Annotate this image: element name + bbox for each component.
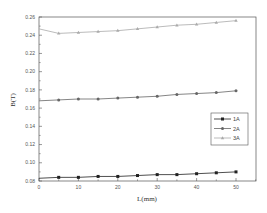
y-tick-label: 0.24 [25, 32, 35, 38]
y-tick-label: 0.12 [25, 141, 35, 147]
legend-label: 3A [233, 135, 240, 141]
x-axis-label: L(mm) [137, 195, 157, 203]
series-2A [39, 89, 238, 101]
legend-label: 1A [233, 116, 240, 122]
x-axis: 01020304050 [38, 178, 256, 190]
x-tick-label: 50 [233, 184, 239, 190]
x-tick-label: 30 [154, 184, 160, 190]
x-tick-label: 10 [76, 184, 82, 190]
y-axis-label: B(T) [9, 93, 17, 107]
y-tick-label: 0.20 [25, 68, 35, 74]
series-1A [39, 170, 238, 178]
y-tick-label: 0.08 [25, 178, 35, 184]
legend: 1A2A3A [211, 113, 248, 145]
series-3A [39, 19, 238, 35]
y-tick-label: 0.14 [25, 123, 35, 129]
x-tick-label: 0 [38, 184, 41, 190]
line-chart: 0.080.100.120.140.160.180.200.220.240.26… [0, 0, 267, 213]
legend-label: 2A [233, 126, 240, 132]
y-tick-label: 0.10 [25, 159, 35, 165]
y-tick-label: 0.16 [25, 105, 35, 111]
y-tick-label: 0.18 [25, 87, 35, 93]
y-axis: 0.080.100.120.140.160.180.200.220.240.26 [25, 14, 42, 184]
x-tick-label: 20 [115, 184, 121, 190]
x-tick-label: 40 [194, 184, 200, 190]
series-layer [39, 19, 238, 179]
y-tick-label: 0.26 [25, 14, 35, 20]
y-tick-label: 0.22 [25, 50, 35, 56]
